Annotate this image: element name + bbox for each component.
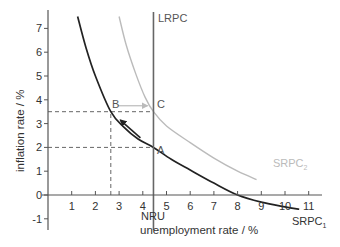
arrow-a-to-b-icon [120,120,140,138]
y-tick-label: 7 [36,22,42,34]
movement-arrows [118,106,148,138]
curves [78,12,300,230]
x-tick-label: 7 [211,200,217,212]
srpc1-label: SRPC1 [292,215,327,229]
y-tick-label: 6 [36,46,42,58]
x-tick-label: 6 [187,200,193,212]
axes: 1234567891011 -101234567 [32,10,322,230]
x-tick-label: 3 [116,200,122,212]
srpc2-curve [119,17,256,180]
x-tick-label: 10 [279,200,291,212]
x-tick-label: 11 [303,200,314,212]
phillips-curve-chart: 1234567891011 -101234567 LRPC NRU unempl… [0,0,340,247]
point-b-label: B [112,98,119,110]
dashed-guides [48,112,153,195]
y-tick-label: 1 [36,165,42,177]
y-tick-label: -1 [32,213,42,225]
x-axis-title: unemployment rate / % [140,224,258,236]
point-c-label: C [157,98,165,110]
y-tick-label: 4 [36,94,42,106]
y-tick-label: 2 [36,141,42,153]
x-tick-label: 8 [235,200,241,212]
x-tick-label: 9 [258,200,264,212]
x-tick-label: 2 [92,200,98,212]
x-ticks: 1234567891011 [69,191,315,212]
point-a-label: A [157,144,165,156]
y-axis-title: inflation rate / % [14,90,26,172]
nru-label: NRU [141,210,165,222]
y-tick-label: 0 [36,189,42,201]
lrpc-label: LRPC [158,12,187,24]
x-tick-label: 1 [69,200,75,212]
srpc2-label: SRPC2 [273,157,308,171]
y-tick-label: 5 [36,70,42,82]
y-tick-label: 3 [36,118,42,130]
